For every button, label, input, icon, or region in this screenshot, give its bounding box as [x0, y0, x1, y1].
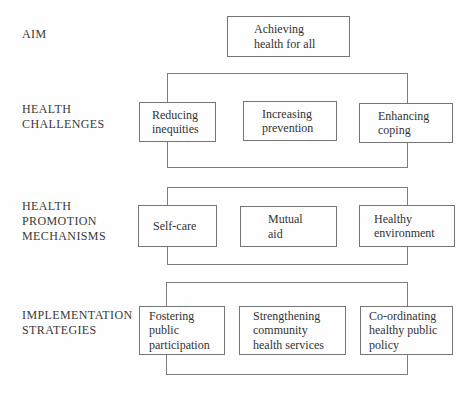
tier-label-line: AIM: [22, 27, 47, 42]
box-text-line: healthy public: [369, 323, 452, 338]
fostering-public-participation-box: Fostering public participation: [139, 306, 225, 355]
tier-label-health-promotion-mechanisms: HEALTH PROMOTION MECHANISMS: [22, 199, 106, 244]
healthy-environment-box: Healthy environment: [359, 205, 455, 247]
tier-label-line: HEALTH: [22, 102, 105, 117]
box-text-line: environment: [374, 226, 454, 241]
tier-label-line: HEALTH: [22, 199, 106, 214]
box-text-line: inequities: [152, 122, 215, 137]
box-text-line: Reducing: [152, 108, 215, 123]
health-for-all-framework-diagram: AIM HEALTH CHALLENGES HEALTH PROMOTION M…: [0, 0, 469, 400]
tier-label-line: STRATEGIES: [22, 323, 133, 338]
tier-label-line: PROMOTION: [22, 214, 106, 229]
tier-label-aim: AIM: [22, 27, 47, 42]
box-text-line: community: [253, 323, 345, 338]
box-text-line: Fostering: [149, 309, 224, 324]
box-text-line: coping: [378, 123, 452, 138]
tier-label-line: IMPLEMENTATION: [22, 308, 133, 323]
box-text-line: public: [149, 323, 224, 338]
tier-label-line: CHALLENGES: [22, 117, 105, 132]
box-text-line: prevention: [262, 121, 336, 136]
box-text-line: Achieving: [254, 22, 349, 37]
tier-label-line: MECHANISMS: [22, 229, 106, 244]
achieving-health-for-all-box: Achieving health for all: [227, 16, 350, 57]
box-text-line: Strengthening: [253, 309, 345, 324]
coordinating-healthy-public-policy-box: Co-ordinating healthy public policy: [360, 306, 453, 355]
box-text-line: Mutual: [268, 212, 336, 227]
strengthening-community-health-services-box: Strengthening community health services: [239, 306, 346, 355]
self-care-box: Self-care: [138, 205, 217, 247]
tier-label-implementation-strategies: IMPLEMENTATION STRATEGIES: [22, 308, 133, 338]
box-text-line: policy: [369, 338, 452, 353]
box-text-line: health services: [253, 338, 345, 353]
box-text-line: Healthy: [374, 212, 454, 227]
box-text-line: Self-care: [153, 219, 216, 234]
box-text-line: participation: [149, 338, 224, 353]
box-text-line: health for all: [254, 37, 349, 52]
box-text-line: aid: [268, 227, 336, 242]
enhancing-coping-box: Enhancing coping: [359, 103, 453, 143]
mutual-aid-box: Mutual aid: [240, 206, 337, 247]
tier-label-health-challenges: HEALTH CHALLENGES: [22, 102, 105, 132]
box-text-line: Increasing: [262, 107, 336, 122]
increasing-prevention-box: Increasing prevention: [243, 101, 337, 141]
reducing-inequities-box: Reducing inequities: [139, 102, 216, 142]
box-text-line: Co-ordinating: [369, 309, 452, 324]
box-text-line: Enhancing: [378, 109, 452, 124]
